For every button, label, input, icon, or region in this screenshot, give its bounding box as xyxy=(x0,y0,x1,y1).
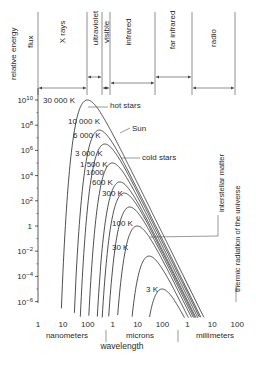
x-tick-label: 100 xyxy=(81,320,95,329)
svg-text:relative energy: relative energy xyxy=(9,28,18,80)
x-tick-label: 1 xyxy=(185,320,190,329)
x-unit-label: nanometers xyxy=(46,331,88,340)
curve-label: 100 K xyxy=(112,219,134,228)
y-ticks: 1010108106104102110−210−410−6 xyxy=(17,95,38,307)
curve-label: 3 000 K xyxy=(75,149,103,158)
sun-label: Sun xyxy=(132,124,146,133)
annotations xyxy=(88,107,236,302)
curve-label: 600 K xyxy=(92,178,114,187)
curve-label: 6 000 K xyxy=(73,131,101,140)
curve-label: 300 K xyxy=(102,189,124,198)
band-label: far infrared xyxy=(168,11,177,50)
x-axis-title: wavelength xyxy=(99,341,143,351)
curve-label: 30 000 K xyxy=(43,96,76,105)
band-label: ultraviolet xyxy=(91,10,100,45)
svg-text:flux: flux xyxy=(26,36,35,48)
x-tick-label: 1 xyxy=(36,320,41,329)
x-ticks: 110100110100110100 xyxy=(36,320,245,329)
hot-stars-label: hot stars xyxy=(110,101,141,110)
curve-label: 3 K xyxy=(146,285,159,294)
y-tick-label: 102 xyxy=(21,196,34,206)
band-label: visible xyxy=(102,20,111,43)
x-unit-label: microns xyxy=(126,331,154,340)
curve-label: 30 K xyxy=(112,243,129,252)
thermic-label: thermic radiation of the universe xyxy=(233,185,242,292)
band-label: radio xyxy=(209,29,218,47)
y-axis-title: relative energy flux xyxy=(9,28,35,80)
x-unit-label: millimeters xyxy=(196,331,234,340)
y-tick-label: 10−2 xyxy=(17,246,33,256)
y-tick-label: 1 xyxy=(28,222,33,231)
y-tick-label: 1010 xyxy=(17,95,33,105)
band-label: X rays xyxy=(58,21,67,44)
band-label: infrared xyxy=(124,18,133,45)
interstellar-label: interstellar matter xyxy=(217,154,226,212)
x-tick-label: 1 xyxy=(110,320,115,329)
y-tick-label: 106 xyxy=(21,145,34,155)
y-tick-label: 10−6 xyxy=(17,297,33,307)
spectrum-bands: X raysultravioletvisibleinfraredfar infr… xyxy=(38,10,235,95)
x-tick-label: 10 xyxy=(133,320,142,329)
y-tick-label: 10−4 xyxy=(17,271,33,281)
cold-stars-label: cold stars xyxy=(142,153,176,162)
curve-label: 10 000 K xyxy=(68,117,101,126)
x-tick-label: 10 xyxy=(58,320,67,329)
curve-label: 1000 xyxy=(86,168,104,177)
y-tick-label: 104 xyxy=(21,171,34,181)
x-units: nanometersmicronsmillimeters xyxy=(46,331,234,340)
x-tick-label: 100 xyxy=(231,320,245,329)
blackbody-chart: relative energy flux X raysultravioletvi… xyxy=(0,0,256,367)
x-tick-label: 100 xyxy=(156,320,170,329)
x-tick-label: 10 xyxy=(208,320,217,329)
y-tick-label: 108 xyxy=(21,120,34,130)
